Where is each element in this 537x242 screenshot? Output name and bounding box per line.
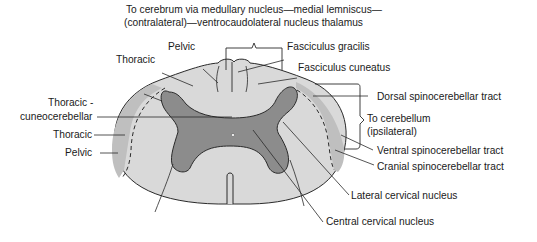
label-fasciculus-cuneatus: Fasciculus cuneatus (298, 62, 390, 74)
ventral-median-fissure (227, 173, 233, 204)
label-to-cerebellum-2: (ipsilateral) (367, 126, 417, 138)
spinal-cord-diagram: To cerebrum via medullary nucleus—medial… (0, 0, 537, 242)
central-canal (231, 133, 234, 136)
label-thoracic-cuneo-1: Thoracic - (48, 97, 93, 109)
label-thoracic-side: Thoracic (53, 129, 92, 141)
label-lateral-cervical-nucleus: Lateral cervical nucleus (351, 190, 457, 202)
label-dorsal-spinocerebellar: Dorsal spinocerebellar tract (377, 91, 501, 103)
label-ventral-spinocerebellar: Ventral spinocerebellar tract (377, 145, 503, 157)
top-caption-line2: (contralateral)—ventrocaudolateral nucle… (124, 17, 363, 29)
label-central-cervical-nucleus: Central cervical nucleus (326, 216, 434, 228)
label-thoracic-cuneo-2: cuneocerebellar (20, 111, 93, 123)
label-fasciculus-gracilis: Fasciculus gracilis (287, 41, 370, 53)
label-to-cerebellum-1: To cerebellum (367, 113, 430, 125)
label-pelvic-side: Pelvic (65, 147, 92, 159)
label-pelvic-top: Pelvic (168, 41, 195, 53)
label-thoracic-top: Thoracic (116, 54, 155, 66)
label-cranial-spinocerebellar: Cranial spinocerebellar tract (377, 161, 504, 173)
top-caption-line1: To cerebrum via medullary nucleus—medial… (126, 4, 382, 16)
